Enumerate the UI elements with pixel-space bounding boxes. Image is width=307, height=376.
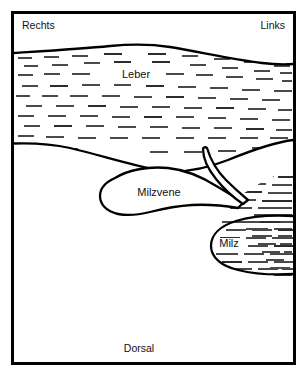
leber-label: Leber: [122, 68, 150, 80]
milz-label: Milz: [219, 237, 239, 249]
orientation-label-left-side: Links: [260, 19, 285, 31]
diagram-canvas: Leber: [0, 0, 307, 376]
orientation-label-dorsal: Dorsal: [124, 342, 154, 354]
orientation-label-right-side: Rechts: [22, 19, 55, 31]
milzvene-label: Milzvene: [137, 186, 180, 198]
ultrasound-schematic-figure: Leber: [0, 0, 307, 376]
